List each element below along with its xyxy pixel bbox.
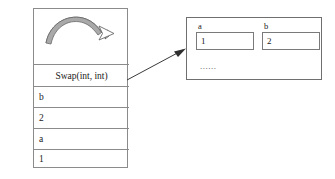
curved-swap-arrow-icon	[44, 12, 118, 46]
variable-b-value: 2	[262, 32, 320, 50]
variable-b: b 2	[262, 21, 320, 50]
stack-row-b: b	[34, 86, 129, 107]
variable-a-name: a	[196, 21, 254, 32]
connector-arrow-icon	[124, 40, 192, 86]
variable-a-value: 1	[196, 32, 254, 50]
swap-call-stack-diagram: Swap(int, int) b 2 a 1 a 1 b 2 ......	[0, 0, 335, 179]
variable-b-name: b	[262, 21, 320, 32]
stack-row-2: 2	[34, 107, 129, 128]
variable-a: a 1	[196, 21, 254, 50]
memory-box: a 1 b 2 ......	[186, 17, 322, 80]
memory-ellipsis: ......	[200, 61, 217, 71]
stack-frame-swap: Swap(int, int)	[34, 64, 129, 86]
stack-row-1: 1	[34, 149, 129, 168]
stack-row-a: a	[34, 128, 129, 149]
